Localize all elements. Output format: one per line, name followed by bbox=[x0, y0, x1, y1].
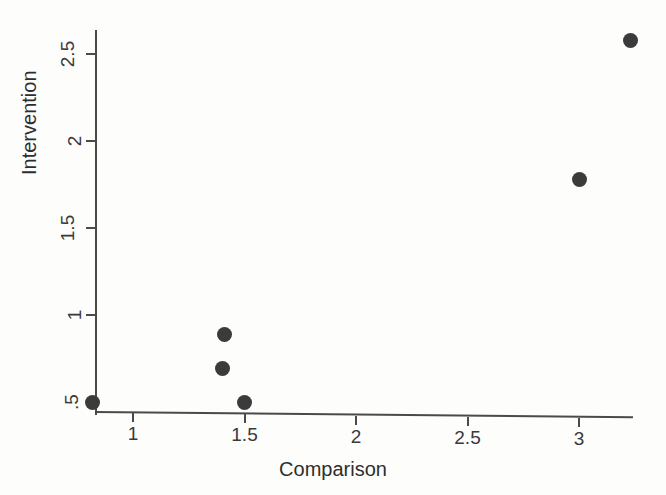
plot-area bbox=[0, 0, 666, 495]
data-point bbox=[237, 395, 252, 410]
data-point bbox=[85, 395, 100, 410]
data-point bbox=[215, 361, 230, 376]
scatter-plot-figure: .511.522.5 11.522.53 Intervention Compar… bbox=[0, 0, 666, 495]
data-point bbox=[217, 327, 232, 342]
data-point bbox=[572, 172, 587, 187]
data-point bbox=[623, 33, 638, 48]
